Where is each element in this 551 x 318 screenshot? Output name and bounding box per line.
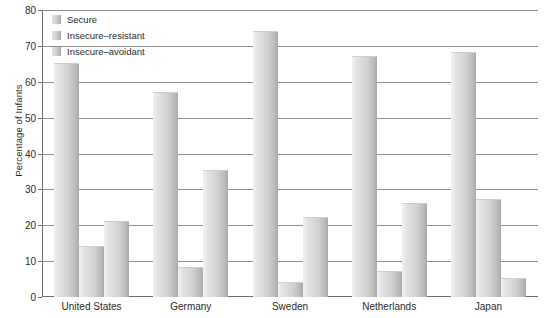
legend-swatch-icon: [52, 15, 61, 24]
bar: [303, 217, 328, 297]
bar: [203, 170, 228, 297]
bar-chart: Percentage of Infants 01020304050607080 …: [0, 0, 551, 318]
legend-label: Insecure–avoidant: [67, 46, 145, 57]
y-tick-label: 70: [25, 40, 36, 51]
y-tick-label: 30: [25, 184, 36, 195]
bar: [377, 271, 402, 297]
y-tick-label: 80: [25, 5, 36, 16]
gridline: [42, 10, 538, 11]
bar: [153, 92, 178, 297]
x-tick-label: Germany: [170, 301, 211, 312]
tick-mark: [38, 154, 42, 155]
y-tick-label: 50: [25, 112, 36, 123]
legend: Secure Insecure–resistant Insecure–avoid…: [52, 14, 145, 57]
tick-mark: [38, 261, 42, 262]
bar: [253, 31, 278, 297]
bar: [278, 282, 303, 297]
legend-label: Secure: [67, 14, 97, 25]
tick-mark: [38, 225, 42, 226]
legend-item-insecure-resistant: Insecure–resistant: [52, 30, 145, 41]
x-tick-label: Japan: [475, 301, 502, 312]
tick-mark: [38, 118, 42, 119]
bar: [178, 267, 203, 297]
legend-item-insecure-avoidant: Insecure–avoidant: [52, 46, 145, 57]
x-tick-label: United States: [62, 301, 122, 312]
bar: [79, 246, 104, 297]
tick-mark: [38, 82, 42, 83]
bar: [501, 278, 526, 297]
x-tick-label: Netherlands: [362, 301, 416, 312]
legend-swatch-icon: [52, 47, 61, 56]
bar: [104, 221, 129, 297]
y-tick-label: 0: [30, 292, 36, 303]
tick-mark: [38, 189, 42, 190]
y-tick-label: 60: [25, 76, 36, 87]
x-tick-label: Sweden: [272, 301, 308, 312]
legend-label: Insecure–resistant: [67, 30, 145, 41]
bar: [476, 199, 501, 297]
bar: [402, 203, 427, 297]
tick-mark: [38, 46, 42, 47]
y-tick-label: 40: [25, 148, 36, 159]
bar: [54, 63, 79, 297]
bar: [352, 56, 377, 297]
tick-mark: [38, 297, 42, 298]
tick-mark: [38, 10, 42, 11]
y-tick-label: 10: [25, 256, 36, 267]
legend-swatch-icon: [52, 31, 61, 40]
bar: [451, 52, 476, 297]
y-tick-label: 20: [25, 220, 36, 231]
y-axis-title: Percentage of Infants: [13, 31, 24, 231]
legend-item-secure: Secure: [52, 14, 145, 25]
